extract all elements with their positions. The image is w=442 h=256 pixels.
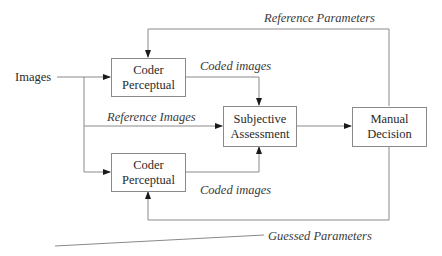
- subjective-line1: Subjective: [234, 112, 287, 127]
- coded-images-top-label: Coded images: [200, 59, 271, 73]
- subjective-assessment-node: Subjective Assessment: [223, 106, 297, 147]
- coder-perceptual-bottom-node: Coder Perceptual: [111, 153, 186, 192]
- manual-line2: Decision: [367, 127, 411, 142]
- coder-perceptual-top-node: Coder Perceptual: [111, 58, 186, 97]
- arrow-coded-images-top: [186, 77, 259, 105]
- stray-line: [55, 235, 264, 246]
- coder-bottom-line1: Coder: [133, 158, 164, 173]
- coder-top-line2: Perceptual: [122, 78, 175, 93]
- coder-top-line1: Coder: [133, 63, 164, 78]
- input-images-label: Images: [15, 70, 51, 84]
- manual-line1: Manual: [370, 112, 408, 127]
- guessed-parameters-label: Guessed Parameters: [268, 229, 372, 243]
- coded-images-bottom-label: Coded images: [200, 183, 271, 197]
- reference-images-label: Reference Images: [107, 110, 196, 124]
- reference-parameters-label: Reference Parameters: [264, 11, 375, 25]
- subjective-line2: Assessment: [230, 127, 289, 142]
- coder-bottom-line2: Perceptual: [122, 173, 175, 188]
- manual-decision-node: Manual Decision: [352, 107, 427, 147]
- arrow-coded-images-bottom: [186, 147, 259, 172]
